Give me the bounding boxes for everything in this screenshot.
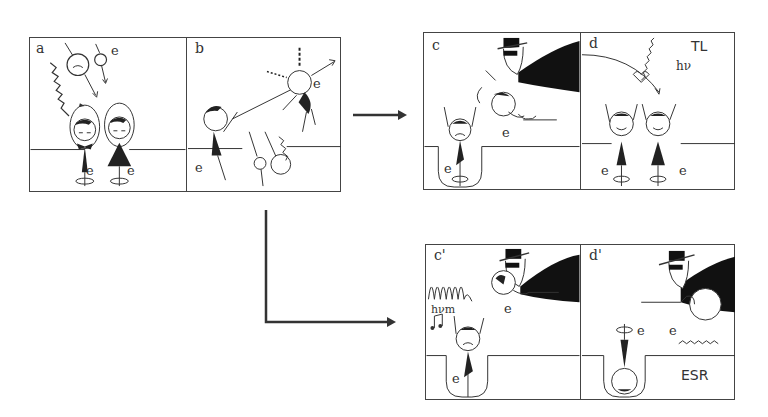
villain-cape — [518, 41, 579, 92]
angry-particle-icon — [67, 54, 89, 76]
panel-label-a: a — [36, 40, 44, 56]
panel-d: d TL hν e e — [581, 33, 736, 189]
electron-label: e — [669, 323, 677, 338]
panel-a-drawing — [30, 38, 186, 191]
panel-group-tl: c e e d TL — [423, 32, 735, 190]
panel-a: a e e e — [30, 38, 187, 191]
arrow-to-esr-icon — [266, 210, 396, 327]
panel-label-d-prime: d' — [589, 247, 602, 263]
light-particle-icon — [95, 54, 107, 66]
electron-label: e — [195, 160, 203, 175]
electron-label: e — [504, 301, 512, 316]
photon-label: hνm — [431, 303, 455, 316]
panel-d-prime: d' ESR e e — [581, 245, 736, 399]
panel-c-prime-drawing — [426, 245, 580, 399]
electron-label: e — [679, 163, 687, 178]
panel-c-prime: c' hνm e e — [426, 245, 581, 399]
electron-label: e — [601, 163, 609, 178]
photon-wave-icon — [641, 38, 654, 80]
tl-tag: TL — [691, 38, 707, 54]
photon-label: hν — [676, 59, 691, 73]
electron-label: e — [111, 43, 119, 58]
electron-label: e — [444, 161, 452, 176]
electron-label: e — [452, 371, 460, 386]
electron-label: e — [502, 125, 510, 140]
panel-label-b: b — [195, 40, 204, 56]
electron-label: e — [637, 323, 645, 338]
panel-label-c-prime: c' — [434, 247, 446, 263]
panel-c: c e e — [424, 33, 581, 189]
panel-label-d: d — [589, 35, 598, 51]
microwave-icon — [428, 287, 471, 301]
electron-label: e — [127, 163, 135, 178]
panel-d-prime-drawing — [581, 245, 736, 399]
panel-b: b e e — [187, 38, 342, 191]
electron-label: e — [86, 163, 94, 178]
panel-group-esr: c' hνm e e d' ESR e e — [425, 244, 735, 400]
panel-group-initial: a e e e — [29, 37, 341, 192]
relaxation-wave-icon — [679, 341, 718, 344]
panel-b-drawing — [187, 38, 342, 191]
electron-label: e — [313, 76, 321, 91]
esr-tag: ESR — [681, 367, 708, 383]
panel-label-c: c — [432, 37, 440, 53]
arrow-to-tl-icon — [353, 110, 407, 120]
radiation-wave-icon — [50, 63, 69, 116]
